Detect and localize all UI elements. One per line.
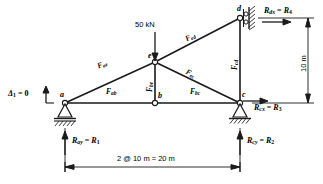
dimension-span [65, 128, 240, 172]
joint-label-b: b [158, 92, 162, 100]
support-d-roller-top [244, 12, 248, 16]
truss-diagram-figure: a b c e d 50 kN Fab Fbc Fae Fbe Fec Fed … [0, 0, 323, 184]
support-d [244, 6, 256, 30]
support-a-hatching [55, 121, 75, 126]
reaction-label-rcy: Rcy = R2 [247, 137, 274, 146]
reaction-label-rdx: Rdx = R4 [264, 7, 292, 16]
member-ec [155, 62, 240, 103]
force-label-fbc-sub: bc [195, 90, 200, 96]
span-arrow-left [65, 165, 74, 170]
force-label-fcd-sub: cd [233, 60, 239, 65]
dimension-label-span: 2 @ 10 m = 20 m [117, 155, 175, 163]
support-c-triangle [233, 104, 247, 117]
support-a [54, 104, 76, 126]
load-label-50kn: 50 kN [135, 21, 155, 29]
joint-label-a: a [60, 91, 64, 99]
reaction-label-rdx-eq: = [275, 6, 284, 15]
force-label-fcd-symbol: F [230, 65, 239, 70]
force-label-fab: Fab [106, 88, 116, 97]
reaction-arrow-rdx [262, 19, 291, 25]
joint-label-d: d [237, 5, 241, 13]
force-label-fbe-symbol: F [145, 87, 154, 92]
reaction-label-rcx: Rcx = R3 [254, 104, 282, 113]
delta1-head [43, 86, 49, 93]
reaction-label-rcy-eq: = [257, 136, 266, 145]
reaction-label-ray: Ray = R1 [72, 137, 100, 146]
height-arrow-top [306, 18, 311, 27]
displacement-indicator-delta1 [43, 86, 54, 103]
joint-d [237, 15, 242, 20]
support-d-hatching [249, 6, 255, 30]
joint-label-e: e [148, 52, 152, 60]
dimension-label-height: 10 m [300, 55, 308, 72]
span-arrow-right [231, 165, 240, 170]
reaction-label-ray-rsub: 1 [97, 139, 100, 145]
force-label-fbe-sub: be [148, 82, 154, 87]
reaction-label-rdx-rsub: 4 [289, 9, 292, 15]
support-c-hatching [230, 119, 250, 124]
member-ed [155, 18, 240, 62]
reaction-label-rcx-rsub: 3 [279, 106, 282, 112]
reaction-label-rcy-rsub: 2 [271, 139, 274, 145]
joint-label-c: c [242, 91, 246, 99]
member-ae [65, 62, 155, 103]
force-label-fab-sub: ab [111, 90, 116, 96]
height-arrow-bottom [306, 94, 311, 103]
support-a-triangle [58, 104, 72, 117]
load-arrow-50kn [152, 32, 158, 61]
force-label-fcd: Fcd [231, 60, 240, 70]
support-d-roller-bottom [244, 20, 248, 24]
joint-b [152, 100, 157, 105]
force-label-fbe: Fbe [146, 82, 155, 92]
rdx-head [283, 19, 291, 25]
displacement-label-delta1: Δ1 = 0 [8, 90, 28, 99]
force-label-fbc: Fbc [190, 88, 200, 97]
support-c [229, 104, 251, 124]
displacement-eq: = 0 [16, 89, 29, 98]
